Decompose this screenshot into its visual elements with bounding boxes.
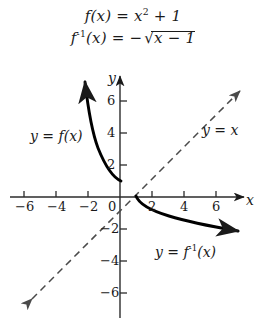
- function-inverse-graph-figure: f(x) = x2 + 1 f-1(x) = −√x − 1: [0, 0, 266, 332]
- label-identity-line: y = x: [202, 122, 238, 138]
- y-tick-label-neg6: −6: [100, 285, 119, 300]
- x-tick-label-neg2: −2: [79, 199, 98, 214]
- x-tick-label-2: 2: [148, 199, 156, 214]
- x-tick-label-neg6: −6: [15, 199, 34, 214]
- x-tick-label-6: 6: [212, 199, 220, 214]
- x-tick-label-neg4: −4: [47, 199, 66, 214]
- x-tick-label-4: 4: [180, 199, 188, 214]
- x-axis: [10, 191, 244, 197]
- y-axis-label: y: [108, 70, 116, 86]
- y-tick-label-4: 4: [107, 125, 115, 140]
- label-finv-suffix: (x): [197, 244, 216, 260]
- y-tick-label-6: 6: [107, 93, 115, 108]
- graph-canvas: [0, 0, 266, 332]
- y-tick-label-neg2: −2: [100, 221, 119, 236]
- label-curve-f: y = f(x): [30, 128, 83, 144]
- curve-f-of-x: [85, 82, 121, 181]
- label-finv-exponent: -1: [189, 243, 197, 253]
- label-curve-f-inverse: y = f-1(x): [155, 243, 216, 260]
- x-axis-label: x: [246, 192, 254, 208]
- label-finv-prefix: y = f: [155, 244, 189, 260]
- origin-label: 0: [108, 199, 116, 214]
- y-tick-label-2: 2: [107, 157, 115, 172]
- y-tick-label-neg4: −4: [100, 253, 119, 268]
